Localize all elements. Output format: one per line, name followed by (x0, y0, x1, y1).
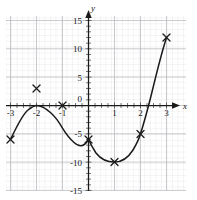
coordinate-plane: -3 -2 -1 1 2 3 15 10 5 0 -5 -10 -15 x y (0, 0, 197, 200)
x-tick-label: -3 (7, 108, 15, 118)
y-tick-label: 5 (78, 73, 83, 83)
y-tick-label: -15 (70, 186, 82, 196)
y-tick-label-origin: 0 (78, 94, 83, 104)
y-axis-label: y (90, 3, 95, 13)
graph-figure: -3 -2 -1 1 2 3 15 10 5 0 -5 -10 -15 x y (0, 0, 197, 200)
x-tick-label: -2 (33, 108, 41, 118)
x-tick-label: 1 (112, 108, 117, 118)
y-tick-label: -5 (75, 129, 83, 139)
y-tick-label: 10 (73, 44, 83, 54)
x-tick-label: -1 (59, 108, 67, 118)
y-tick-label: 15 (73, 16, 83, 26)
grid-area (6, 16, 186, 191)
x-tick-label: 2 (138, 108, 143, 118)
x-tick-label: 3 (164, 108, 169, 118)
x-axis-label: x (182, 101, 187, 111)
y-tick-label: -10 (70, 158, 82, 168)
